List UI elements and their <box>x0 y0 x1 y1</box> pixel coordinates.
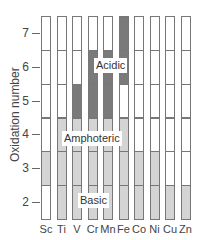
cell-sc-4 <box>41 118 51 153</box>
x-tick-label: Cr <box>85 223 101 235</box>
cell-mn-3 <box>103 151 113 186</box>
cell-cr-7 <box>88 16 98 51</box>
cell-ti-3 <box>57 151 67 186</box>
cell-ni-4 <box>150 118 160 153</box>
cell-cr-5 <box>88 84 98 119</box>
cell-ni-5 <box>150 84 160 119</box>
y-tick-label: 5 <box>17 95 29 107</box>
cell-ti-5 <box>57 84 67 119</box>
cell-v-7 <box>72 16 82 51</box>
cell-zn-7 <box>181 16 191 51</box>
cell-cu-3 <box>165 151 175 186</box>
x-tick-label: Cu <box>162 223 178 235</box>
cell-ti-7 <box>57 16 67 51</box>
basic-label: Basic <box>78 193 109 208</box>
y-tick-label: 7 <box>17 27 29 39</box>
cell-cu-5 <box>165 84 175 119</box>
x-tick-label: Zn <box>178 223 194 235</box>
cell-cu-7 <box>165 16 175 51</box>
cell-mn-7 <box>103 16 113 51</box>
cell-v-5 <box>72 84 82 119</box>
y-tick-label: 2 <box>17 196 29 208</box>
cell-mn-5 <box>103 84 113 119</box>
cell-sc-6 <box>41 50 51 85</box>
y-axis-label: Oxidation number <box>8 72 22 162</box>
y-tick-mark <box>32 202 40 203</box>
y-tick-mark <box>32 168 40 169</box>
cell-fe-7 <box>119 16 129 51</box>
oxidation-chart: Oxidation number 234567 ScTiVCrMnFeCoNiC… <box>0 0 204 240</box>
x-tick-label: V <box>69 223 85 235</box>
cell-fe-3 <box>119 151 129 186</box>
cell-zn-2 <box>181 185 191 220</box>
cell-fe-2 <box>119 185 129 220</box>
y-tick-mark <box>32 101 40 102</box>
y-tick-label: 4 <box>17 128 29 140</box>
cell-co-5 <box>134 84 144 119</box>
x-tick-label: Co <box>131 223 147 235</box>
cell-ni-2 <box>150 185 160 220</box>
y-tick-mark <box>32 67 40 68</box>
x-tick-label: Ti <box>54 223 70 235</box>
amphoteric-label: Amphoteric <box>62 131 122 146</box>
cell-sc-7 <box>41 16 51 51</box>
x-tick-label: Fe <box>116 223 132 235</box>
cell-cu-2 <box>165 185 175 220</box>
cell-co-6 <box>134 50 144 85</box>
cell-sc-2 <box>41 185 51 220</box>
cell-cu-6 <box>165 50 175 85</box>
cell-co-4 <box>134 118 144 153</box>
cell-zn-4 <box>181 118 191 153</box>
y-tick-mark <box>32 33 40 34</box>
cell-zn-3 <box>181 151 191 186</box>
cell-ni-6 <box>150 50 160 85</box>
cell-co-7 <box>134 16 144 51</box>
x-tick-label: Sc <box>38 223 54 235</box>
cell-ni-7 <box>150 16 160 51</box>
y-tick-mark <box>32 134 40 135</box>
acidic-label: Acidic <box>94 58 127 73</box>
cell-zn-5 <box>181 84 191 119</box>
cell-cu-4 <box>165 118 175 153</box>
cell-sc-5 <box>41 84 51 119</box>
cell-v-3 <box>72 151 82 186</box>
cell-ti-6 <box>57 50 67 85</box>
x-tick-label: Mn <box>100 223 116 235</box>
y-tick-label: 3 <box>17 162 29 174</box>
cell-sc-3 <box>41 151 51 186</box>
cell-ti-2 <box>57 185 67 220</box>
cell-co-2 <box>134 185 144 220</box>
cell-ni-3 <box>150 151 160 186</box>
cell-zn-6 <box>181 50 191 85</box>
cell-v-6 <box>72 50 82 85</box>
cell-co-3 <box>134 151 144 186</box>
cell-cr-3 <box>88 151 98 186</box>
x-tick-label: Ni <box>147 223 163 235</box>
y-tick-label: 6 <box>17 61 29 73</box>
cell-fe-5 <box>119 84 129 119</box>
